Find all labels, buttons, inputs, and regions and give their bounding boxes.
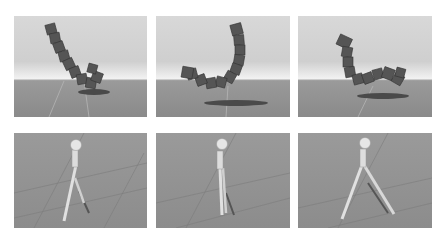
panel-top-middle [156, 16, 290, 117]
biped-render [156, 133, 290, 228]
panel-top-left [14, 16, 147, 117]
biped-render [298, 133, 432, 228]
snake-chain-render [14, 16, 147, 117]
snake-chain-render [298, 16, 432, 117]
panel-bottom-middle [156, 133, 290, 228]
panel-top-right [298, 16, 432, 117]
biped-render [14, 133, 147, 228]
panel-bottom-left [14, 133, 147, 228]
snake-chain-render [156, 16, 290, 117]
panel-bottom-right [298, 133, 432, 228]
